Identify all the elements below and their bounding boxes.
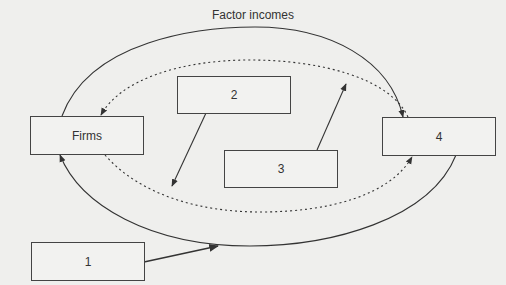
box-1: 1 — [31, 242, 145, 281]
box-2: 2 — [177, 76, 291, 114]
box-4-label: 4 — [436, 130, 443, 144]
box3-arrow — [317, 84, 346, 150]
box1-arrow — [144, 246, 218, 262]
box-4: 4 — [382, 117, 496, 156]
box-2-label: 2 — [231, 88, 238, 102]
box-1-label: 1 — [85, 255, 92, 269]
box2-arrow — [172, 113, 206, 186]
firms-box: Firms — [30, 116, 144, 155]
box-3: 3 — [224, 150, 338, 188]
box-3-label: 3 — [278, 162, 285, 176]
firms-label: Firms — [72, 129, 102, 143]
factor-incomes-label: Factor incomes — [0, 8, 506, 22]
